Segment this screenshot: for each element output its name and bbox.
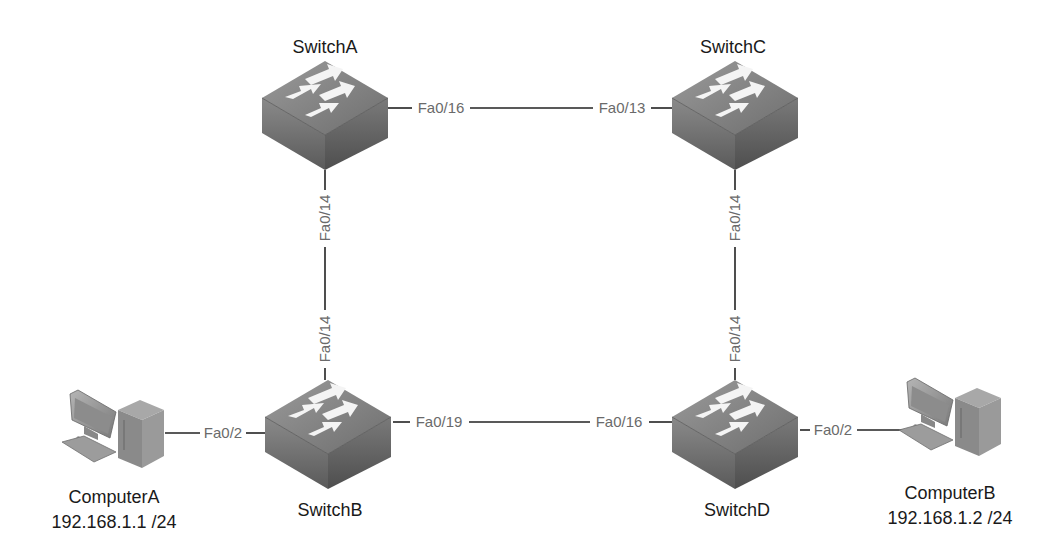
port-label-d-c: Fa0/14 [726,316,743,363]
switch-b-label: SwitchB [297,500,362,520]
switch-d[interactable]: SwitchD [672,380,798,520]
port-label-d-pcb: Fa0/2 [814,421,852,438]
port-label-c-d: Fa0/14 [726,195,743,242]
network-diagram: SwitchA SwitchC SwitchB SwitchD Computer… [0,0,1064,559]
port-label-a-c: Fa0/16 [418,99,465,116]
computer-a-ip: 192.168.1.1 /24 [51,512,176,532]
switch-c-label: SwitchC [700,37,766,57]
computer-icon [899,378,1001,456]
switch-c[interactable]: SwitchC [672,37,798,170]
port-label-d-b: Fa0/16 [596,413,643,430]
port-label-a-b: Fa0/14 [316,195,333,242]
switch-icon [672,61,798,170]
computer-b[interactable]: ComputerB 192.168.1.2 /24 [887,378,1012,528]
computer-a-label: ComputerA [68,487,159,507]
computer-icon [62,390,164,468]
switch-icon [265,380,391,489]
computer-b-label: ComputerB [904,483,995,503]
switch-icon [672,380,798,489]
port-label-b-pca: Fa0/2 [204,424,242,441]
switch-d-label: SwitchD [704,500,770,520]
computer-a[interactable]: ComputerA 192.168.1.1 /24 [51,390,176,532]
port-label-b-d: Fa0/19 [416,413,463,430]
computer-b-ip: 192.168.1.2 /24 [887,508,1012,528]
switch-a-label: SwitchA [292,37,357,57]
port-label-b-a: Fa0/14 [316,316,333,363]
port-label-c-a: Fa0/13 [599,99,646,116]
switch-icon [262,61,388,170]
switch-a[interactable]: SwitchA [262,37,388,170]
switch-b[interactable]: SwitchB [265,380,391,520]
